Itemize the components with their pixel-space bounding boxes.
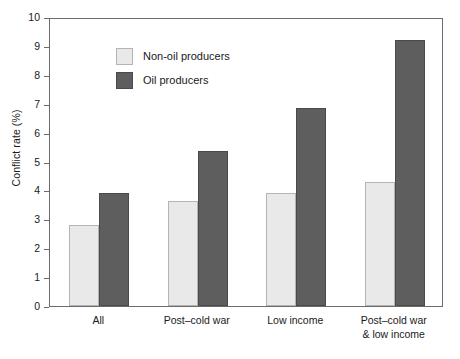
legend-item-label: Non-oil producers [143, 50, 230, 63]
y-axis-tick-label: 5 [34, 156, 40, 169]
bar [296, 108, 326, 306]
y-axis-tick-label: 10 [28, 11, 40, 24]
y-axis-tick-label: 0 [34, 300, 40, 313]
y-axis-tick-label: 6 [34, 127, 40, 140]
bar [395, 40, 425, 306]
y-axis-tick-label: 3 [34, 213, 40, 226]
legend-item: Oil producers [116, 69, 230, 91]
y-axis-tick-mark [44, 307, 49, 308]
bar [365, 182, 395, 306]
y-axis-tick-label: 1 [34, 271, 40, 284]
bar-chart-figure: Conflict rate (%) 109876543210 Non-oil p… [0, 0, 460, 359]
y-axis-tick-label: 9 [34, 40, 40, 53]
legend-item-label: Oil producers [143, 74, 208, 87]
y-axis-tick-label: 8 [34, 69, 40, 82]
y-axis-title: Conflict rate (%) [10, 88, 22, 208]
bar [99, 193, 129, 306]
bar [266, 193, 296, 306]
bar [69, 225, 99, 306]
chart-legend: Non-oil producersOil producers [116, 45, 230, 93]
plot-area: Non-oil producersOil producers [49, 18, 443, 307]
bar [168, 201, 198, 306]
y-axis-tick-label: 7 [34, 98, 40, 111]
y-axis-tick-label: 2 [34, 242, 40, 255]
y-axis-tick-label: 4 [34, 184, 40, 197]
legend-swatch-oil [116, 72, 133, 89]
legend-item: Non-oil producers [116, 45, 230, 67]
x-axis-label: Post–cold war & low income [329, 314, 459, 341]
legend-swatch-nonoil [116, 48, 133, 65]
bar [198, 151, 228, 306]
